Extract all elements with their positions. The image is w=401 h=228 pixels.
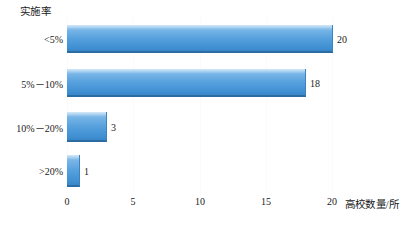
- category-label-3: >20%: [39, 166, 63, 177]
- bar-row: 5%－10% 18: [67, 61, 333, 105]
- x-tick-label-3: 15: [261, 196, 271, 207]
- category-label-2: 10%－20%: [16, 120, 63, 135]
- x-tick-label-2: 10: [195, 196, 205, 207]
- value-label-0: 20: [337, 34, 347, 45]
- y-axis-title: 实施率: [20, 3, 51, 18]
- x-tick-label-4: 20: [327, 196, 337, 207]
- bar-row: >20% 1: [67, 149, 333, 193]
- bar-chart: 实施率 <5% 20 5%－10% 18 10%－20% 3 >20% 1: [0, 0, 401, 228]
- bar-0[interactable]: [67, 25, 333, 53]
- category-label-0: <5%: [44, 34, 63, 45]
- x-tick-label-0: 0: [65, 196, 70, 207]
- bar-row: 10%－20% 3: [67, 105, 333, 149]
- bar-2[interactable]: [67, 112, 107, 142]
- category-label-1: 5%－10%: [21, 76, 63, 91]
- value-label-1: 18: [310, 78, 320, 89]
- x-axis-title: 高校数量/所: [345, 196, 399, 211]
- plot-area: <5% 20 5%－10% 18 10%－20% 3 >20% 1: [67, 17, 333, 193]
- x-tick-label-1: 5: [131, 196, 136, 207]
- bar-3[interactable]: [67, 155, 80, 187]
- bar-row: <5% 20: [67, 17, 333, 61]
- value-label-2: 3: [111, 122, 116, 133]
- value-label-3: 1: [84, 166, 89, 177]
- bar-1[interactable]: [67, 69, 306, 97]
